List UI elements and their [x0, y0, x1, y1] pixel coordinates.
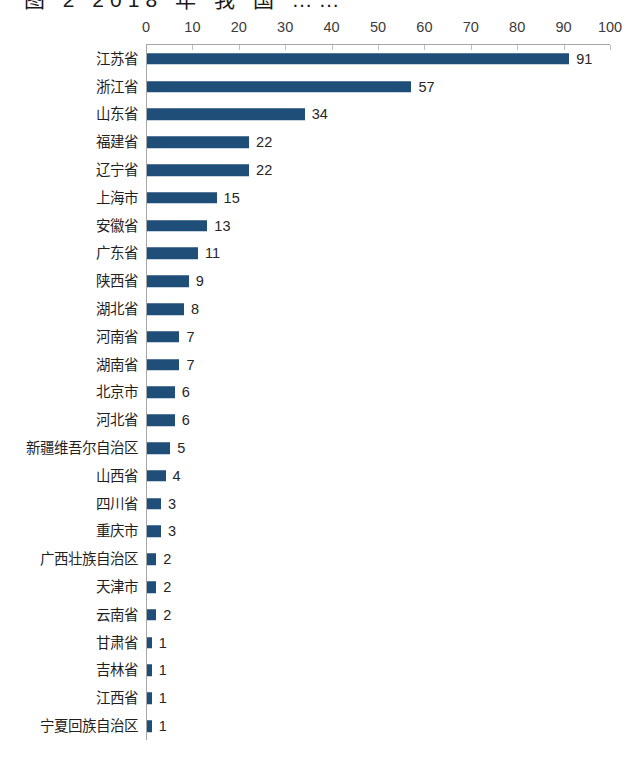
bar-track [147, 720, 611, 732]
x-axis-tick-label: 50 [370, 19, 386, 35]
x-axis-tick-label: 40 [324, 19, 340, 35]
bar-value-label: 2 [163, 552, 171, 567]
bar-track [147, 81, 611, 93]
bar-row[interactable]: 河北省6 [0, 406, 638, 434]
bar[interactable] [147, 470, 166, 482]
bar-row[interactable]: 宁夏回族自治区1 [0, 712, 638, 740]
category-label: 河南省 [96, 330, 138, 345]
bar[interactable] [147, 526, 161, 538]
bar-row[interactable]: 河南省7 [0, 323, 638, 351]
bar-track [147, 387, 611, 399]
bar[interactable] [147, 109, 305, 121]
bar[interactable] [147, 164, 249, 176]
category-label: 河北省 [96, 413, 138, 428]
category-label: 北京市 [96, 385, 138, 400]
cropped-title-text: 图 2 2018 年 我 国 …… [24, 0, 345, 13]
bar[interactable] [147, 81, 411, 93]
bar-value-label: 57 [418, 79, 434, 94]
bar-value-label: 1 [159, 635, 167, 650]
bar[interactable] [147, 692, 152, 704]
bar[interactable] [147, 387, 175, 399]
category-label: 山西省 [96, 469, 138, 484]
bar-track [147, 665, 611, 677]
bar[interactable] [147, 553, 156, 565]
cropped-title-fragment: 图 2 2018 年 我 国 …… [0, 0, 638, 13]
bar-row[interactable]: 浙江省57 [0, 73, 638, 101]
bar[interactable] [147, 220, 207, 232]
x-axis-tick-label: 90 [556, 19, 572, 35]
bar-track [147, 359, 611, 371]
bar-rows: 江苏省91浙江省57山东省34福建省22辽宁省22上海市15安徽省13广东省11… [0, 45, 638, 740]
bar-row[interactable]: 新疆维吾尔自治区5 [0, 434, 638, 462]
bar[interactable] [147, 276, 189, 288]
x-axis-tick-labels: 0102030405060708090100 [0, 19, 638, 41]
bar-row[interactable]: 江西省1 [0, 684, 638, 712]
bar-row[interactable]: 安徽省13 [0, 212, 638, 240]
bar-value-label: 22 [256, 163, 272, 178]
bar[interactable] [147, 331, 179, 343]
bar-row[interactable]: 山东省34 [0, 101, 638, 129]
bar-track [147, 303, 611, 315]
bar-row[interactable]: 甘肃省1 [0, 629, 638, 657]
x-axis-tick-label: 10 [184, 19, 200, 35]
bar-row[interactable]: 天津市2 [0, 573, 638, 601]
bar-row[interactable]: 北京市6 [0, 379, 638, 407]
bar-track [147, 53, 611, 65]
bar-value-label: 11 [205, 246, 220, 261]
x-axis-tick-label: 80 [509, 19, 525, 35]
bar[interactable] [147, 303, 184, 315]
category-label: 陕西省 [96, 274, 138, 289]
bar-track [147, 498, 611, 510]
bar[interactable] [147, 665, 152, 677]
bar[interactable] [147, 498, 161, 510]
bar-track [147, 276, 611, 288]
x-axis-tick-label: 60 [416, 19, 432, 35]
bar[interactable] [147, 192, 217, 204]
bar-track [147, 164, 611, 176]
category-label: 福建省 [96, 135, 138, 150]
bar-value-label: 5 [177, 441, 185, 456]
bar[interactable] [147, 581, 156, 593]
bar-track [147, 415, 611, 427]
bar-row[interactable]: 辽宁省22 [0, 156, 638, 184]
bar-track [147, 692, 611, 704]
bar-row[interactable]: 陕西省9 [0, 267, 638, 295]
category-label: 重庆市 [96, 524, 138, 539]
category-label: 天津市 [96, 580, 138, 595]
bar-row[interactable]: 吉林省1 [0, 657, 638, 685]
bar-track [147, 331, 611, 343]
bar-row[interactable]: 上海市15 [0, 184, 638, 212]
bar-row[interactable]: 湖北省8 [0, 295, 638, 323]
bar-row[interactable]: 重庆市3 [0, 518, 638, 546]
bar-row[interactable]: 广东省11 [0, 240, 638, 268]
bar[interactable] [147, 137, 249, 149]
bar-value-label: 2 [163, 580, 171, 595]
bar[interactable] [147, 248, 198, 260]
bar-value-label: 22 [256, 135, 272, 150]
category-label: 安徽省 [96, 218, 138, 233]
x-axis-tick-label: 100 [598, 19, 622, 35]
category-label: 江苏省 [96, 52, 138, 67]
bar-row[interactable]: 福建省22 [0, 128, 638, 156]
bar[interactable] [147, 720, 152, 732]
bar-value-label: 2 [163, 608, 171, 623]
category-label: 辽宁省 [96, 163, 138, 178]
bar[interactable] [147, 442, 170, 454]
bar-row[interactable]: 山西省4 [0, 462, 638, 490]
category-label: 甘肃省 [96, 635, 138, 650]
bar-value-label: 7 [186, 330, 194, 345]
bar[interactable] [147, 359, 179, 371]
bar[interactable] [147, 53, 569, 65]
category-label: 上海市 [96, 191, 138, 206]
bar-row[interactable]: 江苏省91 [0, 45, 638, 73]
bar[interactable] [147, 609, 156, 621]
bar-row[interactable]: 广西壮族自治区2 [0, 545, 638, 573]
bar[interactable] [147, 415, 175, 427]
bar-row[interactable]: 四川省3 [0, 490, 638, 518]
bar-row[interactable]: 湖南省7 [0, 351, 638, 379]
bar-value-label: 15 [224, 191, 240, 206]
bar[interactable] [147, 637, 152, 649]
bar-value-label: 1 [159, 719, 167, 734]
category-label: 山东省 [96, 107, 138, 122]
bar-row[interactable]: 云南省2 [0, 601, 638, 629]
